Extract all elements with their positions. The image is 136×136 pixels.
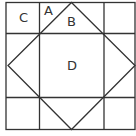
label-d: D (67, 58, 77, 73)
label-b: B (67, 14, 76, 29)
label-c: C (19, 10, 28, 25)
grid-diamond-diagram: C A B D (0, 0, 136, 136)
label-a: A (44, 3, 53, 18)
